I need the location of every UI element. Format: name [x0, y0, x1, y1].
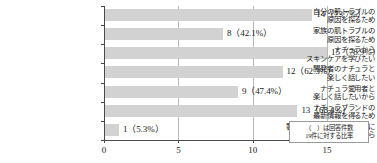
- bar-3: [104, 66, 283, 78]
- y-tick: [101, 83, 104, 84]
- category-label-line2: 楽しく話したいから: [273, 93, 375, 101]
- x-tick: [253, 140, 254, 143]
- chart-note-line1: （ ）は回答件数: [292, 124, 366, 132]
- bar-5: [104, 105, 297, 117]
- category-label-line2: 原因を探るため: [273, 36, 375, 44]
- category-label-line1: ナチュラから: [334, 45, 375, 54]
- x-tick-label-10: 10: [248, 145, 257, 156]
- category-label-3: 開発者のナチュラと 楽しく話したい: [273, 65, 377, 82]
- x-tick-label-5: 5: [176, 145, 181, 156]
- x-tick: [178, 140, 179, 143]
- x-tick-label-0: 0: [102, 145, 107, 156]
- bar-value-6: 1（5.3%）: [123, 123, 164, 136]
- category-label-0: 自分の肌トラブルの 原因を探るため: [273, 8, 377, 25]
- horizontal-bar-chart: 14（73.7%） 8（42.1%） 15（78.9%） 12（62.3%） 9…: [0, 0, 377, 163]
- category-label-line2: スキンケアを学びたい: [273, 55, 375, 63]
- y-tick: [101, 6, 104, 7]
- category-label-line2: 最新情報を得るため: [273, 112, 375, 120]
- category-label-line1: 家族の肌トラブルの: [313, 26, 375, 35]
- y-axis-line: [104, 6, 105, 140]
- x-tick: [104, 140, 105, 143]
- bar-1: [104, 28, 223, 40]
- category-label-line2: 楽しく話したい: [273, 74, 375, 82]
- chart-note-box: （ ）は回答件数 19件に対する比率: [289, 121, 369, 143]
- y-tick: [101, 121, 104, 122]
- y-tick: [101, 25, 104, 26]
- y-tick: [101, 44, 104, 45]
- category-label-4: ナチュラ愛用者と 楽しく話したいから: [273, 85, 377, 102]
- category-label-line2: 原因を探るため: [273, 16, 375, 24]
- bar-value-1: 8（42.1%）: [227, 27, 272, 40]
- bar-6: [104, 124, 119, 136]
- category-label-2: ナチュラから スキンケアを学びたい: [273, 46, 377, 63]
- bar-4: [104, 86, 238, 98]
- y-tick: [101, 63, 104, 64]
- category-label-1: 家族の肌トラブルの 原因を探るため: [273, 27, 377, 44]
- x-tick-label-15: 15: [323, 145, 332, 156]
- y-tick: [101, 102, 104, 103]
- chart-note-line2: 19件に対する比率: [292, 132, 366, 140]
- category-label-5: ナチュラブランドの 最新情報を得るため: [273, 104, 377, 121]
